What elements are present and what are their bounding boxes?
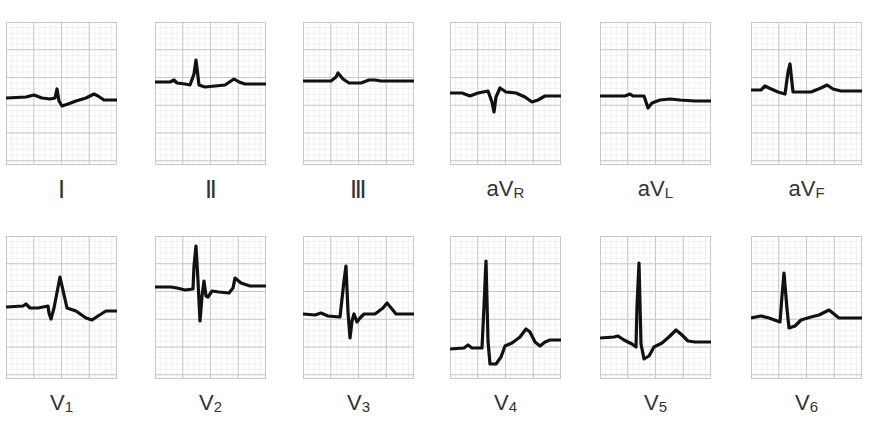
- ecg-panel-avr: [450, 22, 561, 165]
- ecg-panel-iii: [303, 22, 414, 165]
- ecg-panel-avl: [600, 22, 711, 165]
- lead-label-main: aV: [487, 176, 514, 201]
- ecg-panel-v4: [450, 236, 561, 379]
- ecg-panel-v1: [6, 236, 117, 379]
- lead-label-v1: V1: [6, 390, 117, 416]
- lead-label-subscript: 3: [362, 398, 370, 415]
- lead-label-subscript: 1: [65, 398, 73, 415]
- lead-label-avr: aVR: [450, 176, 561, 202]
- lead-label-iii: Ⅲ: [303, 176, 414, 204]
- lead-label-subscript: 5: [659, 398, 667, 415]
- lead-label-subscript: 6: [810, 398, 818, 415]
- lead-label-main: aV: [638, 176, 665, 201]
- lead-label-subscript: R: [514, 184, 525, 201]
- lead-label-avf: aVF: [751, 176, 862, 202]
- lead-label-main: V: [494, 390, 509, 415]
- lead-label-subscript: F: [815, 184, 824, 201]
- lead-label-v4: V4: [450, 390, 561, 416]
- lead-label-v3: V3: [303, 390, 414, 416]
- lead-label-main: V: [347, 390, 362, 415]
- lead-label-ii: Ⅱ: [155, 176, 266, 204]
- lead-label-main: V: [50, 390, 65, 415]
- lead-label-v2: V2: [155, 390, 266, 416]
- lead-label-v6: V6: [751, 390, 862, 416]
- ecg-panel-v3: [303, 236, 414, 379]
- lead-label-v5: V5: [600, 390, 711, 416]
- lead-label-main: V: [199, 390, 214, 415]
- lead-label-subscript: 2: [214, 398, 222, 415]
- ecg-panel-avf: [751, 22, 862, 165]
- lead-label-avl: aVL: [600, 176, 711, 202]
- lead-label-subscript: 4: [509, 398, 517, 415]
- ecg-panel-v5: [600, 236, 711, 379]
- lead-label-subscript: L: [665, 184, 673, 201]
- lead-label-main: aV: [788, 176, 815, 201]
- lead-label-main: V: [795, 390, 810, 415]
- ecg-panel-ii: [155, 22, 266, 165]
- ecg-panel-v2: [155, 236, 266, 379]
- ecg-panel-i: [6, 22, 117, 165]
- lead-label-i: Ⅰ: [6, 176, 117, 204]
- lead-label-main: V: [644, 390, 659, 415]
- ecg-panel-v6: [751, 236, 862, 379]
